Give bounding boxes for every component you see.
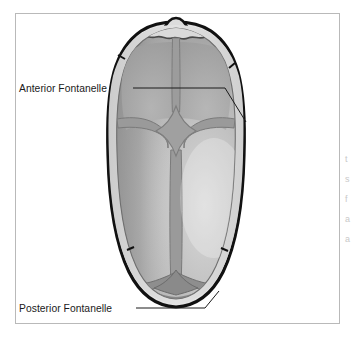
margin-text-fragments: t s f a a bbox=[345, 154, 350, 244]
margin-fragment-5: a bbox=[345, 234, 350, 244]
margin-fragment-1: t bbox=[345, 154, 348, 164]
label-posterior-fontanelle: Posterior Fontanelle bbox=[19, 303, 112, 314]
margin-fragment-2: s bbox=[345, 174, 350, 184]
sagittal-suture bbox=[172, 38, 180, 112]
label-anterior-fontanelle: Anterior Fontanelle bbox=[19, 83, 107, 94]
skull-diagram: Anterior Fontanelle Posterior Fontanelle… bbox=[0, 0, 353, 339]
margin-fragment-4: a bbox=[345, 214, 350, 224]
margin-fragment-3: f bbox=[345, 194, 348, 204]
sagittal-suture-lower bbox=[170, 150, 182, 276]
figure-root: Anterior Fontanelle Posterior Fontanelle… bbox=[0, 0, 353, 339]
